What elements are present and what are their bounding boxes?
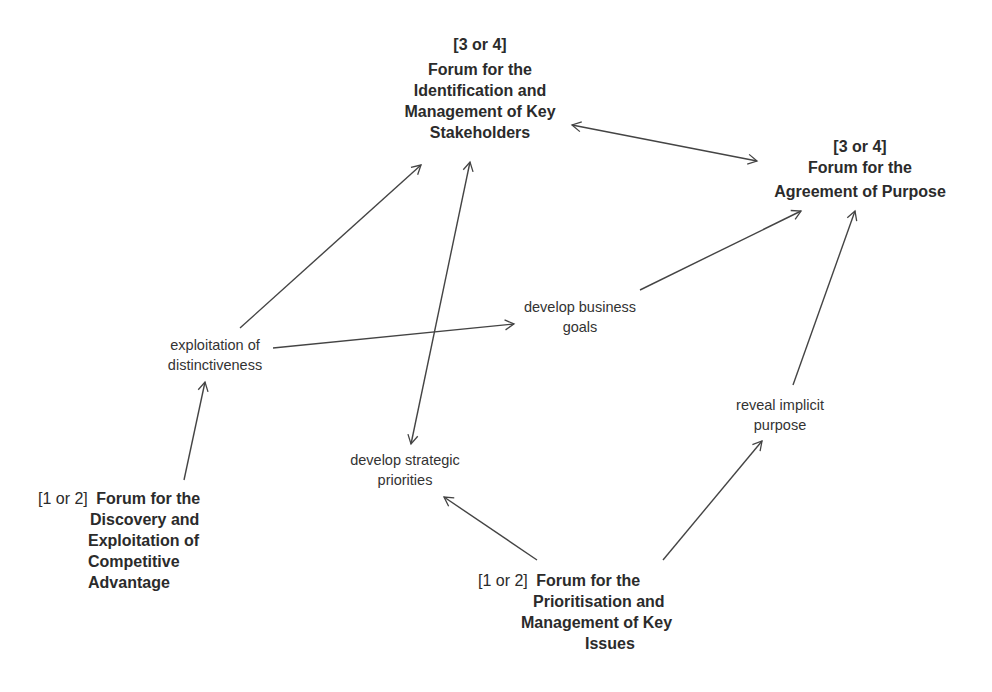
- activity-line: purpose: [715, 415, 845, 435]
- activity-line: priorities: [325, 470, 485, 490]
- activity-reveal-implicit-purpose: reveal implicit purpose: [715, 395, 845, 435]
- forum-competitive-line: Advantage: [38, 572, 278, 593]
- activity-line: exploitation of: [140, 335, 290, 355]
- forum-purpose: [3 or 4] Forum for the Agreement of Purp…: [755, 136, 965, 202]
- forum-purpose-line: Forum for the: [755, 157, 965, 178]
- edge-implicit-purpose-to-purpose: [793, 211, 855, 385]
- forum-issues-first-line: [1 or 2] Forum for the: [478, 570, 718, 591]
- edge-stakeholders-purpose: [572, 125, 757, 161]
- forum-issues-tag: [1 or 2]: [478, 572, 528, 589]
- forum-stakeholders-tag: [3 or 4]: [380, 34, 580, 55]
- diagram-canvas: [3 or 4] Forum for the Identification an…: [0, 0, 992, 692]
- edge-business-goals-to-purpose: [640, 211, 801, 290]
- forum-competitive-line: Exploitation of: [38, 530, 278, 551]
- activity-line: goals: [500, 317, 660, 337]
- edge-issues-to-implicit-purpose: [663, 441, 762, 560]
- activity-line: develop business: [500, 297, 660, 317]
- forum-competitive-advantage: [1 or 2] Forum for the Discovery and Exp…: [38, 488, 278, 593]
- edge-distinctiveness-to-business-goals: [273, 324, 514, 348]
- activity-line: develop strategic: [325, 450, 485, 470]
- forum-purpose-line: Agreement of Purpose: [755, 181, 965, 202]
- forum-competitive-line: Forum for the: [96, 490, 200, 507]
- forum-purpose-tag: [3 or 4]: [755, 136, 965, 157]
- forum-issues-line: Prioritisation and: [478, 591, 718, 612]
- forum-issues-line: Issues: [478, 633, 718, 654]
- activity-line: distinctiveness: [140, 355, 290, 375]
- activity-develop-strategic-priorities: develop strategic priorities: [325, 450, 485, 490]
- forum-stakeholders-line: Forum for the: [380, 59, 580, 80]
- forum-stakeholders: [3 or 4] Forum for the Identification an…: [380, 34, 580, 143]
- edge-issues-to-strategic-priorities: [444, 497, 537, 560]
- forum-stakeholders-line: Stakeholders: [380, 122, 580, 143]
- forum-competitive-first-line: [1 or 2] Forum for the: [38, 488, 278, 509]
- activity-develop-business-goals: develop business goals: [500, 297, 660, 337]
- forum-competitive-tag: [1 or 2]: [38, 490, 88, 507]
- forum-issues-line: Forum for the: [536, 572, 640, 589]
- forum-stakeholders-line: Management of Key: [380, 101, 580, 122]
- forum-competitive-line: Competitive: [38, 551, 278, 572]
- forum-issues-line: Management of Key: [478, 612, 718, 633]
- forum-stakeholders-line: Identification and: [380, 80, 580, 101]
- edge-competitive-to-distinctiveness: [184, 382, 205, 480]
- edge-distinctiveness-to-stakeholders: [240, 165, 421, 328]
- activity-exploitation-of-distinctiveness: exploitation of distinctiveness: [140, 335, 290, 375]
- activity-line: reveal implicit: [715, 395, 845, 415]
- forum-competitive-line: Discovery and: [38, 509, 278, 530]
- edge-stakeholders-strategic-priorities: [411, 162, 470, 444]
- forum-key-issues: [1 or 2] Forum for the Prioritisation an…: [478, 570, 718, 654]
